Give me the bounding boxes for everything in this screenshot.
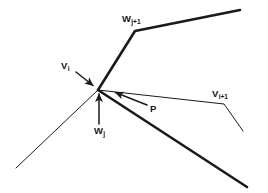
label-p: P <box>150 104 156 114</box>
label-v-i-plus-1-base: V <box>212 88 218 99</box>
label-p-base: P <box>150 103 156 114</box>
label-w-j-plus-1-sub: j+1 <box>131 18 140 25</box>
label-w-j-plus-1-base: W <box>122 13 131 24</box>
label-v-i-base: V <box>61 60 67 71</box>
source-polyline-left <box>16 90 98 168</box>
label-w-j: Wj <box>94 126 105 136</box>
vi-leader-arrow <box>76 72 93 86</box>
label-w-j-sub: j <box>103 130 105 137</box>
label-w-j-plus-1: Wj+1 <box>122 14 140 24</box>
label-w-j-base: W <box>94 125 103 136</box>
vector-diagram-figure: Wj+1 Vi Vi+1 P Wj <box>0 0 268 193</box>
label-v-i-plus-1-sub: i+1 <box>219 93 228 100</box>
offset-polyline-upper <box>98 10 240 90</box>
label-v-i: Vi <box>61 61 69 71</box>
label-v-i-plus-1: Vi+1 <box>212 89 228 99</box>
